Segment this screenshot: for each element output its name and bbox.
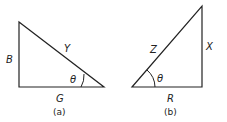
triangle-b-shape [132,6,202,87]
caption-a: (a) [53,107,66,117]
hypotenuse-label-z: Z [149,44,158,55]
angle-label-theta-a: θ [70,74,76,85]
side-label-r: R [167,93,174,104]
hypotenuse-label-y: Y [64,43,71,54]
side-label-b: B [6,54,13,65]
angle-label-theta-b: θ [157,73,163,84]
angle-arc-a [81,74,84,87]
triangle-b: Z X θ R (b) [132,6,214,117]
impedance-triangles-figure: B Y θ G (a) Z X θ R (b) [0,0,227,122]
side-label-g: G [56,93,64,104]
side-label-x: X [205,41,214,52]
triangle-a: B Y θ G (a) [6,22,104,117]
triangle-a-shape [19,22,104,87]
caption-b: (b) [164,107,177,117]
angle-arc-b [147,70,155,87]
